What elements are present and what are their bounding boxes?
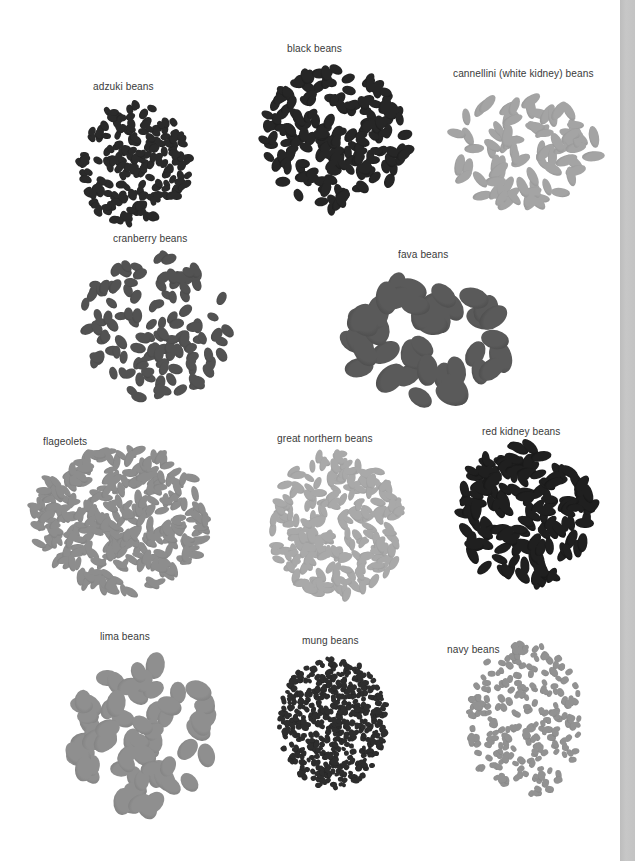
bean <box>190 276 203 293</box>
bean <box>116 114 127 123</box>
bean <box>92 155 104 166</box>
bean <box>202 346 214 362</box>
bean <box>147 298 160 313</box>
bean <box>337 696 341 701</box>
bean <box>280 698 286 705</box>
bean <box>340 71 357 85</box>
bean <box>396 128 414 142</box>
bean <box>215 290 229 306</box>
bean <box>318 694 326 701</box>
bean <box>130 390 148 404</box>
bean <box>137 190 148 198</box>
bean <box>545 716 552 724</box>
bean-label: red kidney beans <box>482 425 560 437</box>
bean-pile-image <box>25 445 215 595</box>
bean <box>395 112 405 126</box>
bean <box>474 749 484 757</box>
bean <box>511 148 519 165</box>
bean <box>292 187 305 203</box>
bean <box>577 533 588 553</box>
bean <box>359 581 366 595</box>
bean <box>575 690 581 697</box>
bean-pile-image <box>262 450 412 600</box>
bean <box>188 551 204 559</box>
bean <box>349 748 357 756</box>
bean-label: mung beans <box>302 634 359 646</box>
bean <box>404 383 435 412</box>
bean <box>130 101 137 111</box>
page-edge-strip <box>620 0 635 861</box>
bean <box>356 662 362 669</box>
bean <box>379 726 385 733</box>
bean <box>363 710 370 716</box>
bean <box>301 750 307 757</box>
bean <box>573 730 582 739</box>
bean-label: cannellini (white kidney) beans <box>453 67 594 79</box>
bean <box>512 646 519 655</box>
bean <box>462 108 472 126</box>
bean <box>376 282 399 316</box>
bean-label: black beans <box>287 42 342 54</box>
bean-pile-image <box>440 85 605 210</box>
bean <box>168 117 179 128</box>
bean <box>567 120 585 129</box>
bean <box>513 671 524 680</box>
bean <box>153 505 170 516</box>
bean <box>365 80 373 93</box>
bean-pile-image <box>335 270 530 410</box>
bean <box>565 700 572 709</box>
bean-pile-image <box>450 440 600 590</box>
bean <box>374 685 380 690</box>
bean <box>344 527 350 540</box>
bean <box>553 748 561 756</box>
bean <box>306 678 313 685</box>
bean <box>100 330 110 344</box>
bean <box>104 296 119 311</box>
bean <box>576 715 583 723</box>
bean <box>483 695 491 704</box>
bean-label: cranberry beans <box>113 232 187 244</box>
bean-label: lima beans <box>100 630 150 642</box>
bean <box>158 754 179 778</box>
bean <box>582 150 606 162</box>
bean <box>499 777 507 783</box>
bean <box>464 143 485 153</box>
bean <box>482 680 491 687</box>
bean <box>176 138 189 149</box>
bean <box>331 768 336 774</box>
bean <box>322 755 329 761</box>
bean <box>470 724 477 732</box>
bean <box>176 303 194 320</box>
bean <box>537 706 546 715</box>
bean <box>571 681 580 690</box>
bean <box>133 309 143 324</box>
bean <box>587 125 601 148</box>
bean <box>367 694 372 699</box>
bean <box>538 643 545 651</box>
bean <box>324 767 329 773</box>
bean <box>551 186 571 197</box>
bean <box>370 739 375 745</box>
bean <box>112 346 121 359</box>
bean-label: adzuki beans <box>93 80 154 92</box>
bean <box>553 775 563 784</box>
bean <box>575 517 595 528</box>
bean <box>345 669 352 675</box>
bean <box>302 725 309 731</box>
bean <box>482 658 492 667</box>
bean <box>546 767 553 775</box>
bean-label: fava beans <box>398 248 448 260</box>
bean <box>177 769 202 795</box>
bean <box>275 176 291 187</box>
bean <box>564 667 574 676</box>
bean <box>367 572 382 590</box>
bean <box>344 468 357 475</box>
bean <box>505 696 514 706</box>
bean-pile-image <box>75 250 235 405</box>
bean <box>168 291 178 305</box>
bean <box>505 726 510 733</box>
bean <box>320 65 331 81</box>
bean <box>369 763 376 769</box>
bean <box>180 497 187 511</box>
bean <box>108 366 119 380</box>
